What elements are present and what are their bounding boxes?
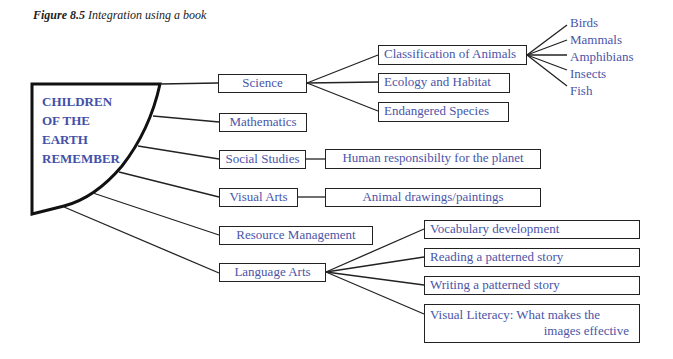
animal-class-list: Birds Mammals Amphibians Insects Fish <box>570 14 634 99</box>
topic-reading-story: Reading a patterned story <box>424 248 640 267</box>
topic-ecology: Ecology and Habitat <box>378 73 510 93</box>
center-title-line: EARTH <box>42 130 120 149</box>
subject-visual-arts: Visual Arts <box>219 188 298 207</box>
subject-science: Science <box>218 74 307 93</box>
figure-caption: Figure 8.5 Integration using a book <box>33 8 206 23</box>
topic-human-responsibility: Human responsibilty for the planet <box>325 149 541 169</box>
topic-vocabulary: Vocabulary development <box>424 220 640 239</box>
visual-literacy-line1: Visual Literacy: What makes the <box>430 307 639 323</box>
topic-writing-story: Writing a patterned story <box>424 276 640 295</box>
animal-class: Amphibians <box>570 48 634 65</box>
topic-classification: Classification of Animals <box>378 45 527 65</box>
center-title-line: REMEMBER <box>42 149 120 168</box>
topic-visual-literacy: Visual Literacy: What makes the images e… <box>424 304 640 343</box>
figure-title: Integration using a book <box>88 8 206 22</box>
visual-literacy-line2: images effective <box>430 323 639 339</box>
center-title-line: CHILDREN <box>42 92 120 111</box>
topic-animal-drawings: Animal drawings/paintings <box>325 188 541 207</box>
subject-resource-management: Resource Management <box>219 226 373 245</box>
figure-number: Figure 8.5 <box>33 8 85 22</box>
topic-endangered-species: Endangered Species <box>378 102 509 122</box>
subject-mathematics: Mathematics <box>219 113 307 132</box>
subject-language-arts: Language Arts <box>219 263 326 282</box>
animal-class: Fish <box>570 82 634 99</box>
subject-social-studies: Social Studies <box>219 150 306 169</box>
center-title: CHILDREN OF THE EARTH REMEMBER <box>42 92 120 168</box>
animal-class: Birds <box>570 14 634 31</box>
center-title-line: OF THE <box>42 111 120 130</box>
animal-class: Insects <box>570 65 634 82</box>
animal-class: Mammals <box>570 31 634 48</box>
